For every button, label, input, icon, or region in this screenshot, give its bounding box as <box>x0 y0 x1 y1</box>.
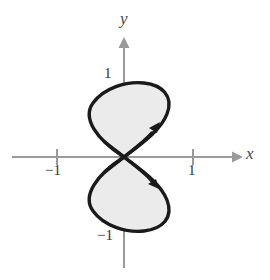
y-tick-label-positive-one: 1 <box>104 66 112 81</box>
y-tick-label-negative-one: −1 <box>97 228 113 243</box>
y-axis-label: y <box>120 10 128 27</box>
x-tick-label-positive-one: 1 <box>188 163 196 178</box>
lower-loop <box>89 157 169 231</box>
upper-loop <box>89 83 169 157</box>
x-axis-label: x <box>246 145 254 162</box>
plot-canvas <box>0 0 270 280</box>
figure-eight-curve-figure: y x 1 −1 1 −1 <box>0 0 270 280</box>
x-tick-label-negative-one: −1 <box>45 163 61 178</box>
